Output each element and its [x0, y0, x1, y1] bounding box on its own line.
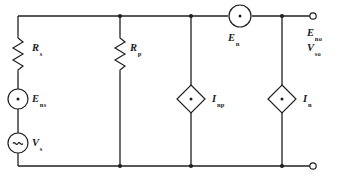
- circuit-schematic-svg: [0, 0, 337, 182]
- output-terminal-top: [310, 13, 316, 19]
- label-eno: Eno: [307, 28, 321, 41]
- junction-dot-in-bottom: [280, 164, 284, 168]
- junction-dot-rp-top: [118, 14, 122, 18]
- resistor-rp: [115, 35, 125, 73]
- label-vso: Vso: [307, 43, 320, 56]
- junction-dot-rp-bottom: [118, 164, 122, 168]
- label-ens: Ens: [32, 94, 46, 107]
- circuit-diagram: Rs Rp Ens Vs En Inp In Eno Vso: [0, 0, 337, 182]
- label-rs: Rs: [32, 43, 42, 56]
- junction-dot-inp-bottom: [189, 164, 193, 168]
- label-in: In: [303, 94, 311, 107]
- junction-dot-in-top: [280, 14, 284, 18]
- source-inp: [177, 85, 205, 113]
- junction-dot-inp-top: [189, 14, 193, 18]
- label-rp: Rp: [130, 43, 141, 56]
- source-ens: [8, 89, 28, 109]
- label-en: En: [228, 33, 239, 46]
- source-en: [229, 5, 251, 27]
- output-terminal-bottom: [310, 163, 316, 169]
- label-inp: Inp: [212, 94, 224, 107]
- source-vs: [8, 133, 28, 153]
- resistor-rs: [13, 35, 23, 73]
- source-in: [268, 85, 296, 113]
- label-vs: Vs: [32, 138, 42, 151]
